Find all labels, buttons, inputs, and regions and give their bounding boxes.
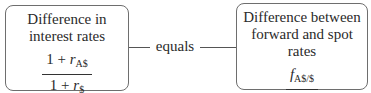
fraction-denominator: 1 + r$ [42,75,92,93]
title-line: Difference in [6,11,128,28]
connector-line-left [129,47,150,48]
exchange-rate-box: Difference between forward and spot rate… [236,3,368,90]
denominator-variable: s [289,92,295,93]
title-line: interest rates [6,28,128,45]
title-line: Difference between [237,9,367,26]
interest-rate-box: Difference in interest rates 1 + rA$ 1 +… [5,5,129,91]
numerator-prefix: 1 + [46,51,69,67]
connector-line-right [200,47,236,48]
interest-rate-title: Difference in interest rates [6,11,128,45]
numerator-subscript: A$/$ [294,73,314,84]
fraction-numerator: 1 + rA$ [42,51,92,75]
denominator-prefix: 1 + [50,77,73,93]
fraction-numerator: fA$/$ [286,66,318,90]
title-line: forward and spot rates [237,26,367,60]
interest-rate-fraction: 1 + rA$ 1 + r$ [42,51,92,93]
equals-label: equals [150,38,200,55]
exchange-rate-fraction: fA$/$ sA$/$ [286,66,318,93]
denominator-subscript: $ [79,84,84,93]
exchange-rate-title: Difference between forward and spot rate… [237,9,367,60]
fraction-denominator: sA$/$ [286,90,318,93]
numerator-subscript: A$ [76,58,88,69]
